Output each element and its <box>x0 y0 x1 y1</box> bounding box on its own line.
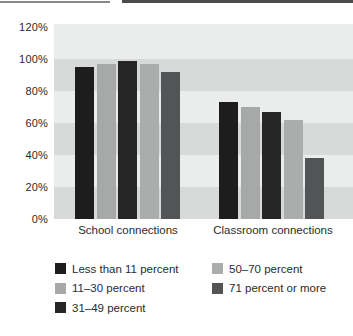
bar-group-classroom <box>219 102 324 219</box>
bar-classroom-series-4 <box>305 158 324 219</box>
legend-item-1: 11–30 percent <box>55 279 179 299</box>
bar-classroom-series-0 <box>219 102 238 219</box>
x-axis-group-label-school: School connections <box>54 224 202 236</box>
bar-classroom-series-2 <box>262 112 281 219</box>
legend-label: 31–49 percent <box>72 302 146 314</box>
legend-swatch-icon <box>55 263 66 274</box>
y-tick-100pct: 100% <box>2 52 48 66</box>
legend-item-3: 50–70 percent <box>212 259 326 279</box>
legend-label: Less than 11 percent <box>72 263 179 275</box>
y-tick-40pct: 40% <box>2 148 48 162</box>
y-tick-60pct: 60% <box>2 116 48 130</box>
legend-label: 11–30 percent <box>72 282 145 294</box>
bar-school-series-3 <box>140 64 159 219</box>
y-tick-20pct: 20% <box>2 180 48 194</box>
legend-label: 50–70 percent <box>229 263 303 275</box>
legend-column-left: Less than 11 percent11–30 percent31–49 p… <box>55 259 179 318</box>
top-rule-right-segment <box>122 0 353 3</box>
x-axis-group-label-classroom: Classroom connections <box>198 224 348 236</box>
legend-swatch-icon <box>55 283 66 294</box>
legend-label: 71 percent or more <box>229 282 326 294</box>
bar-school-series-4 <box>161 72 180 219</box>
top-rule-left-segment <box>0 1 110 3</box>
bar-school-series-1 <box>97 64 116 219</box>
legend-item-0: Less than 11 percent <box>55 259 179 279</box>
legend-swatch-icon <box>212 263 223 274</box>
legend-item-2: 31–49 percent <box>55 298 179 318</box>
legend-item-4: 71 percent or more <box>212 279 326 299</box>
legend-column-right: 50–70 percent71 percent or more <box>212 259 326 298</box>
plot-area <box>54 24 353 219</box>
legend-swatch-icon <box>55 302 66 313</box>
legend-swatch-icon <box>212 283 223 294</box>
y-tick-80pct: 80% <box>2 84 48 98</box>
bar-classroom-series-1 <box>241 107 260 219</box>
figure-screenshot: 120%100%80%60%40%20%0% School connection… <box>0 0 353 336</box>
bar-school-series-2 <box>118 61 137 219</box>
y-tick-0pct: 0% <box>2 212 48 226</box>
grid-band-0 <box>54 24 353 59</box>
bar-group-school <box>75 61 180 219</box>
y-tick-120pct: 120% <box>2 20 48 34</box>
bar-classroom-series-3 <box>284 120 303 219</box>
bar-school-series-0 <box>75 67 94 219</box>
